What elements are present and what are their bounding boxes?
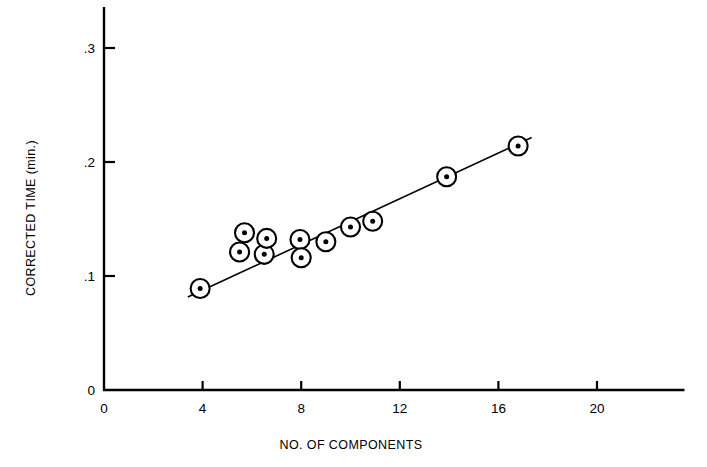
data-point bbox=[290, 230, 309, 249]
y-tick-label: .2 bbox=[84, 155, 95, 170]
data-point bbox=[235, 223, 254, 242]
data-point-dot bbox=[198, 286, 203, 291]
x-axis-ticks bbox=[203, 381, 597, 390]
y-tick-label: .1 bbox=[84, 269, 95, 284]
data-point bbox=[292, 248, 311, 267]
x-tick-label: 12 bbox=[392, 401, 407, 416]
data-point bbox=[230, 243, 249, 262]
data-point-dot bbox=[348, 224, 353, 229]
data-point-dot bbox=[516, 144, 521, 149]
y-axis-tick-labels: 0.1.2.3 bbox=[84, 41, 95, 398]
data-point-dot bbox=[299, 255, 304, 260]
y-tick-label: .3 bbox=[84, 41, 95, 56]
x-tick-label: 4 bbox=[199, 401, 207, 416]
data-point bbox=[316, 232, 335, 251]
regression-line bbox=[188, 137, 532, 297]
y-axis-title: CORRECTED TIME (min.) bbox=[24, 140, 38, 296]
data-point-dot bbox=[370, 219, 375, 224]
y-tick-label: 0 bbox=[87, 383, 95, 398]
data-point-dot bbox=[264, 236, 269, 241]
data-point bbox=[191, 279, 210, 298]
scatter-plot: 048121620 0.1.2.3 NO. OF COMPONENTS CORR… bbox=[0, 0, 707, 467]
data-point bbox=[509, 137, 528, 156]
data-point-dot bbox=[297, 237, 302, 242]
data-point bbox=[257, 229, 276, 248]
x-tick-label: 20 bbox=[589, 401, 604, 416]
data-point bbox=[363, 212, 382, 231]
data-point bbox=[437, 167, 456, 186]
axis-lines bbox=[104, 8, 683, 390]
data-point-dot bbox=[262, 252, 267, 257]
x-axis-tick-labels: 048121620 bbox=[100, 401, 604, 416]
chart-figure: 048121620 0.1.2.3 NO. OF COMPONENTS CORR… bbox=[0, 0, 707, 467]
x-tick-label: 16 bbox=[491, 401, 506, 416]
data-point-dot bbox=[242, 230, 247, 235]
data-point-dot bbox=[237, 250, 242, 255]
x-tick-label: 8 bbox=[297, 401, 305, 416]
data-point-dot bbox=[323, 239, 328, 244]
data-point-dot bbox=[444, 174, 449, 179]
x-axis-title: NO. OF COMPONENTS bbox=[280, 438, 423, 452]
x-tick-label: 0 bbox=[100, 401, 108, 416]
data-point bbox=[341, 217, 360, 236]
y-axis-ticks bbox=[104, 48, 115, 276]
